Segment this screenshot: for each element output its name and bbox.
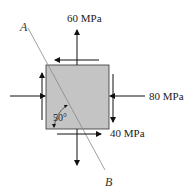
horizontal-stress-label: 80 MPa <box>149 90 184 102</box>
vertical-stress-label: 60 MPa <box>67 12 102 24</box>
plane-point-a-label: A <box>19 20 28 34</box>
stress-element-diagram: 60 MPa 80 MPa 40 MPa A B 50° <box>0 0 192 196</box>
angle-label: 50° <box>53 112 67 123</box>
plane-point-b-label: B <box>105 175 113 189</box>
shear-stress-label: 40 MPa <box>110 127 145 139</box>
